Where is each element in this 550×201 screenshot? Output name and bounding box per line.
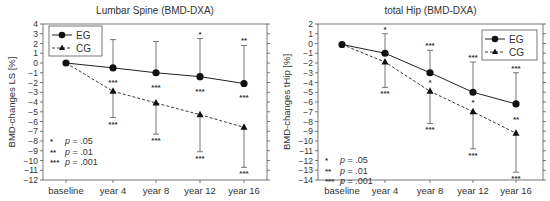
chart-lumbar-spine: Lumbar Spine (BMD-DXA)43210−1−2−3−4−5−6−… <box>6 5 270 196</box>
eg-circle-marker <box>381 50 388 57</box>
y-tick-label: −10 <box>299 136 314 146</box>
svg-text:*: * <box>471 98 475 107</box>
svg-text:***: *** <box>425 125 435 134</box>
svg-text:**: ** <box>50 148 57 157</box>
svg-text:p = .001: p = .001 <box>64 157 98 167</box>
y-tick-label: −1 <box>28 68 38 78</box>
y-tick-label: −5 <box>28 107 38 117</box>
x-tick-label: year 4 <box>100 185 126 196</box>
eg-circle-marker <box>196 73 203 80</box>
y-tick-label: −3 <box>303 68 313 78</box>
svg-text:p = .05: p = .05 <box>64 136 93 146</box>
eg-circle-marker <box>426 69 433 76</box>
eg-circle-marker <box>62 59 69 66</box>
svg-text:***: *** <box>50 158 60 167</box>
chart-total-hip: total Hip (BMD-DXA)210−1−2−3−4−5−6−7−8−9… <box>281 5 546 196</box>
svg-text:**: ** <box>513 115 520 124</box>
x-tick-label: baseline <box>324 185 359 196</box>
y-tick-label: 0 <box>308 39 313 49</box>
eg-circle-marker <box>109 64 116 71</box>
y-tick-label: −6 <box>28 117 38 127</box>
p-value-key: *p = .05**p = .01***p = .001 <box>50 136 98 167</box>
figure: Lumbar Spine (BMD-DXA)43210−1−2−3−4−5−6−… <box>0 0 550 201</box>
legend-eg-marker <box>59 32 66 39</box>
significance-markers: *************************** <box>108 30 249 179</box>
svg-text:p = .05: p = .05 <box>339 155 368 165</box>
svg-text:***: *** <box>151 136 161 145</box>
y-tick-label: −7 <box>28 126 38 136</box>
y-tick-label: −11 <box>299 146 313 156</box>
svg-text:***: *** <box>108 120 118 129</box>
svg-text:***: *** <box>195 87 205 96</box>
svg-text:*: * <box>50 137 54 146</box>
x-axis: baselineyear 4year 8year 12year 16 <box>48 180 260 196</box>
chart-title: total Hip (BMD-DXA) <box>384 5 476 16</box>
cg-triangle-marker <box>110 87 117 94</box>
svg-text:***: *** <box>108 78 118 87</box>
svg-text:***: *** <box>239 93 249 102</box>
y-tick-label: −12 <box>24 175 39 185</box>
eg-circle-marker <box>152 69 159 76</box>
x-tick-label: year 12 <box>457 185 489 196</box>
y-tick-label: −11 <box>24 165 38 175</box>
legend-eg-label: EG <box>509 34 524 45</box>
y-tick-label: 2 <box>33 39 38 49</box>
cg-triangle-marker <box>427 87 434 94</box>
y-tick-label: −7 <box>303 107 313 117</box>
x-tick-label: year 16 <box>500 185 532 196</box>
y-tick-label: −2 <box>28 78 38 88</box>
y-tick-label: −6 <box>303 97 313 107</box>
y-tick-label: −5 <box>303 87 313 97</box>
x-tick-label: year 4 <box>372 185 398 196</box>
svg-text:***: *** <box>511 174 521 183</box>
svg-text:***: *** <box>380 89 390 98</box>
legend: EGCG <box>49 26 102 56</box>
eg-circle-marker <box>512 100 519 107</box>
x-tick-label: year 8 <box>143 185 169 196</box>
eg-circle-marker <box>338 41 345 48</box>
svg-text:**: ** <box>241 36 248 45</box>
y-tick-label: 3 <box>33 29 38 39</box>
x-tick-label: year 16 <box>228 185 260 196</box>
svg-text:**: ** <box>325 167 332 176</box>
svg-text:p = .001: p = .001 <box>339 176 373 186</box>
y-tick-label: −3 <box>28 87 38 97</box>
y-tick-label: −9 <box>28 146 38 156</box>
svg-text:p = .01: p = .01 <box>339 166 368 176</box>
y-tick-label: 1 <box>33 48 38 58</box>
svg-text:***: *** <box>468 151 478 160</box>
y-tick-label: −1 <box>303 48 313 58</box>
p-value-key: *p = .05**p = .01***p = .001 <box>325 155 373 186</box>
svg-text:***: *** <box>468 53 478 62</box>
eg-circle-marker <box>469 89 476 96</box>
y-axis-label: BMD-changes LS [%] <box>6 57 17 148</box>
error-bars <box>110 39 247 168</box>
y-tick-label: 2 <box>308 19 313 29</box>
eg-circle-marker <box>240 80 247 87</box>
svg-text:*: * <box>383 25 387 34</box>
svg-text:***: *** <box>511 64 521 73</box>
svg-text:p = .01: p = .01 <box>64 147 93 157</box>
svg-text:***: *** <box>325 177 335 186</box>
svg-text:***: *** <box>425 41 435 50</box>
svg-text:*: * <box>325 156 329 165</box>
y-tick-label: −10 <box>24 156 39 166</box>
y-tick-label: 4 <box>33 19 38 29</box>
legend-cg-label: CG <box>76 43 91 54</box>
legend-eg-marker <box>492 36 499 43</box>
legend-eg-label: EG <box>76 30 91 41</box>
y-tick-label: −9 <box>303 126 313 136</box>
y-tick-label: −8 <box>28 136 38 146</box>
y-tick-label: −12 <box>299 156 314 166</box>
x-tick-label: year 8 <box>417 185 443 196</box>
svg-text:***: *** <box>239 169 249 178</box>
y-tick-label: −4 <box>303 78 313 88</box>
y-tick-label: −14 <box>299 175 314 185</box>
cg-triangle-marker <box>241 123 248 130</box>
y-tick-label: −8 <box>303 117 313 127</box>
charts-canvas: Lumbar Spine (BMD-DXA)43210−1−2−3−4−5−6−… <box>0 0 550 201</box>
legend-cg-label: CG <box>509 47 524 58</box>
y-tick-label: 1 <box>308 29 313 39</box>
svg-text:*: * <box>198 30 202 39</box>
x-tick-label: baseline <box>48 185 83 196</box>
